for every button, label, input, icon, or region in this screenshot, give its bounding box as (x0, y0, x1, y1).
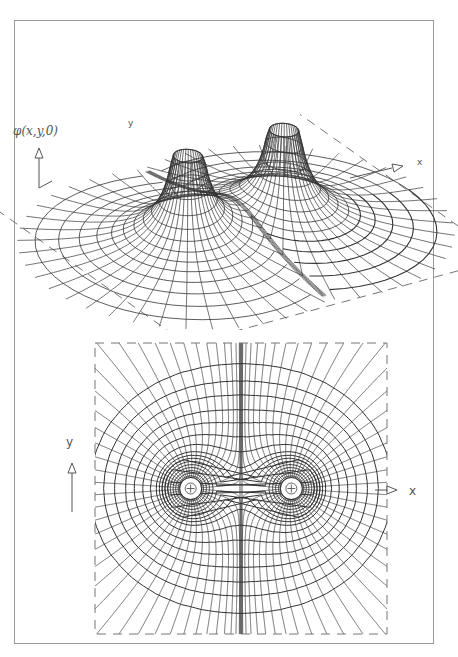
x-axis-label-2d: x (409, 484, 416, 498)
field-line-plot-2d (0, 0, 458, 657)
y-axis-label-2d: y (66, 435, 73, 449)
